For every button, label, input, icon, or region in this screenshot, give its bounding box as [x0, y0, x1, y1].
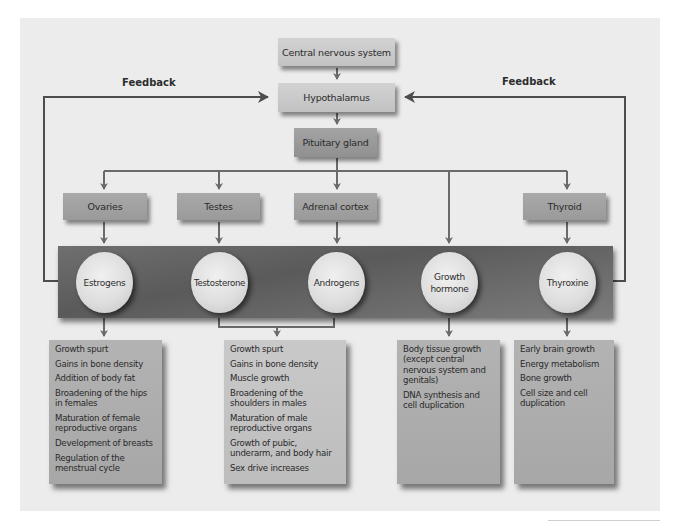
effect-item: Body tissue growth (except central nervo… — [403, 344, 494, 385]
gland-label: Ovaries — [88, 201, 123, 212]
gland-label: Thyroid — [547, 201, 581, 212]
effect-item: Gains in bone density — [230, 359, 340, 369]
effect-item: Maturation of male reproductive organs — [230, 413, 340, 434]
hormone-circle-estrogens: Estrogens — [76, 252, 133, 313]
effect-item: Maturation of female reproductive organs — [55, 413, 156, 434]
feedback-label-right: Feedback — [502, 76, 556, 87]
hormone-circle-androgens: Androgens — [308, 252, 365, 313]
effects-list: Body tissue growth (except central nervo… — [403, 344, 494, 410]
hormone-label: Testosterone — [194, 277, 245, 289]
effects-box-growth-hormone: Body tissue growth (except central nervo… — [397, 340, 500, 484]
cns-box: Central nervous system — [278, 38, 395, 66]
effects-list: Growth spurt Gains in bone density Muscl… — [230, 344, 340, 473]
gland-box-adrenal-cortex: Adrenal cortex — [294, 193, 377, 220]
hormone-circle-growth-hormone: Growth hormone — [421, 252, 478, 313]
hormone-label: Thyroxine — [547, 277, 589, 289]
effects-box-testosterone-androgens: Growth spurt Gains in bone density Muscl… — [224, 340, 346, 484]
effect-item: Growth spurt — [230, 344, 340, 354]
effect-item: Growth of pubic, underarm, and body hair — [230, 438, 340, 459]
effects-list: Growth spurt Gains in bone density Addit… — [55, 344, 156, 473]
hormone-circle-testosterone: Testosterone — [191, 252, 248, 313]
hormone-label: Growth hormone — [430, 271, 469, 295]
effect-item: Bone growth — [520, 373, 608, 383]
gland-label: Adrenal cortex — [302, 201, 369, 212]
effect-item: Cell size and cell duplication — [520, 388, 608, 409]
effect-item: Muscle growth — [230, 373, 340, 383]
hormone-label: Androgens — [314, 277, 360, 289]
gland-box-ovaries: Ovaries — [63, 193, 147, 220]
effect-item: DNA synthesis and cell duplication — [403, 390, 494, 411]
pituitary-label: Pituitary gland — [302, 137, 368, 148]
gland-label: Testes — [204, 201, 232, 212]
effect-item: Broadening of the hips in females — [55, 388, 156, 409]
effect-item: Addition of body fat — [55, 373, 156, 383]
effect-item: Gains in bone density — [55, 359, 156, 369]
effect-item: Early brain growth — [520, 344, 608, 354]
effect-item: Sex drive increases — [230, 463, 340, 473]
effect-item: Development of breasts — [55, 438, 156, 448]
hypothalamus-label: Hypothalamus — [303, 92, 369, 103]
feedback-label-left: Feedback — [122, 77, 176, 88]
effects-list: Early brain growth Energy metabolism Bon… — [520, 344, 608, 409]
hormone-label: Estrogens — [84, 277, 126, 289]
hormone-circle-thyroxine: Thyroxine — [539, 252, 596, 313]
effect-item: Energy metabolism — [520, 359, 608, 369]
gland-box-thyroid: Thyroid — [523, 193, 606, 220]
effect-item: Regulation of the menstrual cycle — [55, 453, 156, 474]
pituitary-box: Pituitary gland — [294, 128, 377, 157]
effect-item: Broadening of the shoulders in males — [230, 388, 340, 409]
effect-item: Growth spurt — [55, 344, 156, 354]
effects-box-thyroxine: Early brain growth Energy metabolism Bon… — [514, 340, 614, 484]
gland-box-testes: Testes — [177, 193, 260, 220]
hypothalamus-box: Hypothalamus — [278, 83, 395, 112]
effects-box-estrogens: Growth spurt Gains in bone density Addit… — [49, 340, 162, 484]
cns-label: Central nervous system — [282, 47, 391, 58]
